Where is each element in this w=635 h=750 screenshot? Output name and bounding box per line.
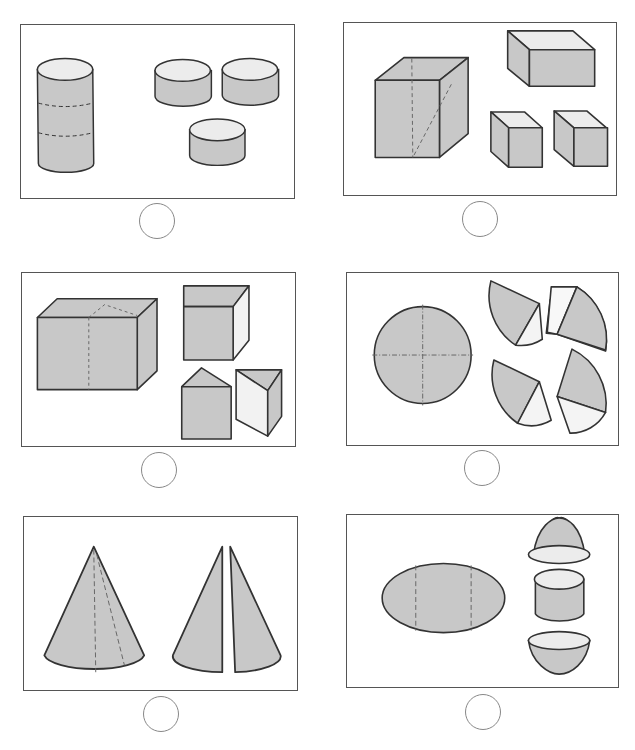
answer-circle-4[interactable] xyxy=(464,450,500,486)
answer-circle-2[interactable] xyxy=(462,201,498,237)
ellipsoid-diagram xyxy=(347,515,618,687)
cone-diagram xyxy=(24,517,297,690)
answer-circle-1[interactable] xyxy=(139,203,175,239)
answer-circle-5[interactable] xyxy=(143,696,179,732)
panel-cone: cone with dashed cut lines xyxy=(23,516,298,691)
answer-circle-3[interactable] xyxy=(141,452,177,488)
prism-diagram xyxy=(22,273,295,446)
panel-prism: rectangular prism with dashed cut lines xyxy=(21,272,296,447)
panel-cube: cube with dashed diagonal cut xyxy=(343,22,617,196)
answer-circle-6[interactable] xyxy=(465,694,501,730)
panel-cylinder: tall cylinder with two dashed cut lines xyxy=(20,24,295,199)
panel-ellipsoid: ellipsoid with two dashed cut lines xyxy=(346,514,619,688)
cube-diagram xyxy=(344,23,616,195)
circle-diagram xyxy=(347,273,618,445)
cylinder-diagram xyxy=(21,25,294,198)
panel-circle: circle with dash-dot cross lines xyxy=(346,272,619,446)
